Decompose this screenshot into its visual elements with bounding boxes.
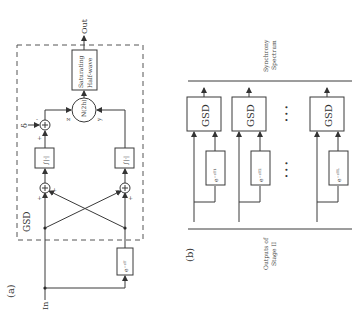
svg-text:+: + [52, 186, 57, 193]
stage-ii-label: Stage II [270, 241, 278, 266]
svg-text:GSD: GSD [323, 104, 334, 127]
channel-1: GSD e⁻ˢᵀ¹ [187, 88, 225, 222]
svg-text:GSD: GSD [200, 104, 211, 127]
svg-text:Half-wave: Half-wave [86, 57, 93, 88]
svg-text:GSD: GSD [245, 104, 256, 127]
svg-text:-: - [36, 115, 38, 122]
svg-text:+: + [128, 194, 133, 201]
svg-text:+: + [37, 134, 42, 141]
signal-y-label: y [95, 117, 103, 122]
panel-b: (b) Synchrony Spectrum Outputs of Stage … [184, 39, 352, 270]
svg-text:e⁻ˢᵀ¹: e⁻ˢᵀ¹ [212, 168, 219, 182]
signal-z-label: z [64, 118, 71, 121]
svg-text:e⁻ˢᵀᴸ: e⁻ˢᵀᴸ [335, 168, 342, 182]
svg-text:Saturating: Saturating [77, 55, 85, 88]
ellipsis-top: • • • [283, 105, 291, 122]
panel-a: GSD (a) In e⁻ˢᵀ + + - + [5, 18, 143, 310]
spectrum-label: Spectrum [270, 40, 278, 70]
svg-text:+: + [37, 194, 42, 201]
ellipsis-bottom: • • • [283, 161, 291, 178]
channel-2: GSD e⁻ˢᵀ² [232, 88, 270, 222]
panel-a-label: (a) [5, 284, 16, 298]
integrator-right-label: ∫|·| [122, 156, 130, 165]
delay-label: e⁻ˢᵀ [122, 260, 129, 272]
delta-label: δ [20, 123, 29, 128]
channel-L: GSD e⁻ˢᵀᴸ [310, 88, 348, 222]
svg-text:-: - [117, 186, 119, 193]
saturating-halfwave-block [72, 50, 97, 90]
integrator-left-label: ∫|·| [42, 156, 50, 165]
input-label: In [41, 302, 50, 310]
panel-b-label: (b) [184, 248, 195, 262]
outputs-of-label: Outputs of [262, 237, 270, 270]
svg-text:e⁻ˢᵀ²: e⁻ˢᵀ² [257, 168, 264, 182]
gsd-diagram: GSD (a) In e⁻ˢᵀ + + - + [0, 0, 362, 318]
synchrony-label: Synchrony [262, 39, 270, 72]
nonlinearity-label: N(2h) [80, 99, 87, 117]
gsd-block-label: GSD [22, 211, 32, 232]
output-label: Out [80, 18, 89, 34]
